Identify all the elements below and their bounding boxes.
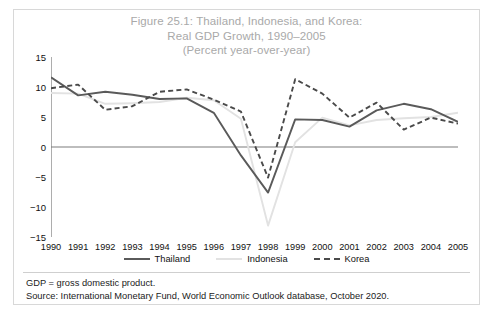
footnote-definition: GDP = gross domestic product. — [26, 277, 471, 290]
series-line-indonesia — [51, 93, 458, 226]
legend-swatch-thailand — [124, 258, 150, 260]
chart-canvas — [51, 57, 458, 237]
legend-item-thailand[interactable]: Thailand — [124, 254, 191, 264]
footnote-divider — [23, 272, 470, 273]
x-tick-label: 1996 — [204, 242, 224, 252]
x-tick-label: 1997 — [231, 242, 251, 252]
x-tick-label: 1995 — [176, 242, 196, 252]
x-tick-label: 1998 — [258, 242, 278, 252]
x-tick-label: 2003 — [393, 242, 413, 252]
series-lines — [51, 77, 458, 225]
x-tick-label: 1992 — [95, 242, 115, 252]
y-axis: 151050−5−10−15 — [16, 57, 46, 237]
y-tick-label: 0 — [20, 142, 46, 153]
x-tick-label: 2004 — [421, 242, 441, 252]
y-tick-label: 15 — [20, 52, 46, 63]
legend-label: Thailand — [155, 254, 191, 264]
y-tick-label: 10 — [20, 82, 46, 93]
figure-title: Figure 25.1: Thailand, Indonesia, and Ko… — [0, 14, 493, 58]
y-tick-label: 5 — [20, 112, 46, 123]
legend-swatch-indonesia — [216, 258, 242, 260]
x-tick-label: 2005 — [448, 242, 468, 252]
x-tick-label: 2000 — [312, 242, 332, 252]
figure-container: Figure 25.1: Thailand, Indonesia, and Ko… — [0, 0, 493, 318]
title-line-2: Real GDP Growth, 1990–2005 — [0, 29, 493, 44]
x-tick-label: 1994 — [149, 242, 169, 252]
title-line-3: (Percent year-over-year) — [0, 43, 493, 58]
series-line-korea — [51, 79, 458, 177]
legend-item-indonesia[interactable]: Indonesia — [216, 254, 287, 264]
x-tick-label: 1991 — [68, 242, 88, 252]
footnote-source: Source: International Monetary Fund, Wor… — [26, 290, 471, 303]
x-tick-label: 1990 — [41, 242, 61, 252]
series-line-thailand — [51, 77, 458, 192]
footnotes: GDP = gross domestic product. Source: In… — [26, 277, 471, 303]
y-tick-label: −10 — [20, 202, 46, 213]
legend-item-korea[interactable]: Korea — [314, 254, 370, 264]
legend-label: Korea — [345, 254, 370, 264]
plot-area — [51, 57, 458, 237]
legend-label: Indonesia — [247, 254, 287, 264]
chart-legend: ThailandIndonesiaKorea — [0, 254, 493, 264]
legend-swatch-korea — [314, 258, 340, 260]
title-line-1: Figure 25.1: Thailand, Indonesia, and Ko… — [0, 14, 493, 29]
x-tick-label: 1999 — [285, 242, 305, 252]
x-tick-label: 2001 — [339, 242, 359, 252]
x-tick-label: 2002 — [366, 242, 386, 252]
y-tick-label: −5 — [20, 172, 46, 183]
x-tick-label: 1993 — [122, 242, 142, 252]
y-tick-label: −15 — [20, 232, 46, 243]
